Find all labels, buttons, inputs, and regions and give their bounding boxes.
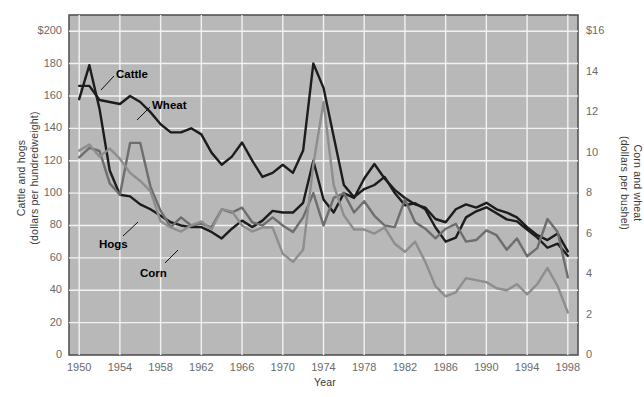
y-axis-left-tick-label: 60 [10, 251, 62, 263]
y-axis-right-title-line1: Corn and wheat [632, 145, 644, 222]
y-axis-left-tick-label: 80 [10, 218, 62, 230]
y-axis-right-tick-label: 4 [586, 267, 630, 279]
y-axis-left-title-line1: Cattle and hogs [15, 140, 27, 217]
y-axis-left-tick-label: $200 [10, 24, 62, 36]
x-axis-tick-label: 1998 [543, 361, 593, 373]
y-axis-left-tick-label: 40 [10, 283, 62, 295]
y-axis-right-tick-label: 0 [586, 348, 630, 360]
y-axis-left-tick-label: 20 [10, 316, 62, 328]
y-axis-left-tick-label: 0 [10, 348, 62, 360]
series-label-cattle: Cattle [116, 68, 148, 80]
y-axis-left-tick-label: 120 [10, 154, 62, 166]
series-label-wheat: Wheat [152, 99, 187, 111]
y-axis-left-tick-label: 180 [10, 57, 62, 69]
y-axis-left-tick-label: 100 [10, 186, 62, 198]
series-label-corn: Corn [140, 267, 167, 279]
y-axis-left-tick-label: 140 [10, 121, 62, 133]
y-axis-right-tick-label: 8 [586, 186, 630, 198]
y-axis-right-title: Corn and wheat (dollars per bushel) [618, 93, 644, 273]
y-axis-right-tick-label: $16 [586, 24, 630, 36]
x-axis-title: Year [280, 376, 370, 389]
y-axis-right-tick-label: 12 [586, 105, 630, 117]
y-axis-right-tick-label: 2 [586, 308, 630, 320]
y-axis-right-tick-label: 14 [586, 65, 630, 77]
y-axis-right-tick-label: 6 [586, 227, 630, 239]
series-label-hogs: Hogs [99, 238, 128, 250]
y-axis-left-tick-label: 160 [10, 89, 62, 101]
y-axis-left-title: Cattle and hogs (dollars per hundredweig… [15, 88, 41, 268]
y-axis-right-tick-label: 10 [586, 146, 630, 158]
